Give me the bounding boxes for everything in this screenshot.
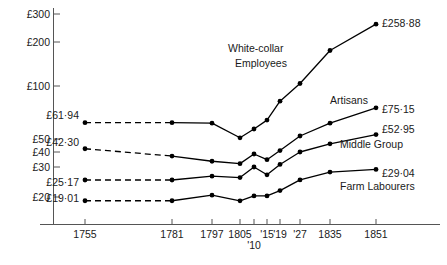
- data-point-marker: [374, 22, 379, 27]
- white-collar-start-value: £61·94: [46, 109, 79, 121]
- farm-labourers-label: Farm Labourers: [340, 180, 415, 192]
- data-point-marker: [238, 135, 243, 140]
- y-tick-label: £300: [27, 8, 51, 20]
- middle-group-label: Middle Group: [340, 138, 403, 150]
- data-point-marker: [265, 118, 270, 123]
- data-point-marker: [238, 161, 243, 166]
- middle-group-end-value: £52·95: [382, 123, 415, 135]
- data-point-marker: [83, 198, 88, 203]
- data-point-marker: [252, 127, 257, 132]
- data-point-marker: [328, 48, 333, 53]
- white-collar-label-line2: Employees: [235, 57, 287, 69]
- x-tick-label: 1755: [73, 228, 97, 240]
- data-point-marker: [328, 141, 333, 146]
- x-tick-label: '10: [247, 239, 261, 251]
- data-point-marker: [374, 132, 379, 137]
- data-point-marker: [210, 121, 215, 126]
- data-point-marker: [83, 178, 88, 183]
- data-point-marker: [278, 188, 283, 193]
- series-middle-group: [83, 132, 379, 182]
- artisans-label: Artisans: [330, 94, 368, 106]
- data-point-marker: [210, 174, 215, 179]
- y-axis-tick-labels: £300£200£100£50£40£30£20: [27, 8, 51, 203]
- data-point-marker: [83, 120, 88, 125]
- data-point-marker: [170, 120, 175, 125]
- x-tick-label: '27: [293, 228, 307, 240]
- y-tick-label: £200: [27, 36, 51, 48]
- farm-labourers-end-value: £29·04: [382, 167, 415, 179]
- data-point-marker: [170, 198, 175, 203]
- data-point-marker: [83, 146, 88, 151]
- white-collar-label-line1: White-collar: [228, 42, 284, 54]
- data-point-marker: [265, 157, 270, 162]
- y-tick-label: £30: [32, 161, 50, 173]
- data-point-marker: [265, 172, 270, 177]
- data-point-marker: [265, 193, 270, 198]
- data-point-marker: [238, 198, 243, 203]
- x-tick-label: '15: [260, 228, 274, 240]
- data-point-marker: [374, 167, 379, 172]
- data-point-marker: [238, 175, 243, 180]
- middle-group-start-value: £25·17: [46, 176, 79, 188]
- data-point-marker: [328, 170, 333, 175]
- x-tick-label: 1781: [160, 228, 184, 240]
- data-point-marker: [210, 193, 215, 198]
- data-point-marker: [278, 148, 283, 153]
- data-point-marker: [298, 134, 303, 139]
- farm-labourers-start-value: £19·01: [46, 192, 79, 204]
- data-point-marker: [252, 193, 257, 198]
- data-point-marker: [170, 178, 175, 183]
- x-tick-label: '19: [273, 228, 287, 240]
- wage-trends-chart: £300£200£100£50£40£30£20 175517811797180…: [0, 0, 447, 265]
- x-tick-label: 1835: [318, 228, 342, 240]
- white-collar-end-value: £258·88: [382, 17, 421, 29]
- data-point-marker: [298, 150, 303, 155]
- data-point-marker: [278, 99, 283, 104]
- data-point-marker: [252, 165, 257, 170]
- x-tick-label: 1851: [364, 228, 388, 240]
- data-point-marker: [374, 105, 379, 110]
- data-point-marker: [278, 162, 283, 167]
- series-path: [172, 108, 376, 164]
- series-dashed-segment: [85, 149, 172, 156]
- x-axis-tick-labels: 1755178117971805'10'15'19'2718351851: [73, 228, 388, 251]
- data-point-marker: [170, 154, 175, 159]
- data-point-marker: [252, 152, 257, 157]
- x-tick-label: 1797: [200, 228, 224, 240]
- artisans-start-value: £42·30: [46, 136, 79, 148]
- series-farm-labourers: [83, 167, 379, 203]
- y-axis-ticks: [54, 14, 60, 197]
- y-tick-label: £100: [27, 80, 51, 92]
- data-point-marker: [298, 81, 303, 86]
- x-axis-ticks: [85, 219, 376, 224]
- artisans-end-value: £75·15: [382, 103, 415, 115]
- series-artisans: [83, 105, 379, 166]
- data-point-marker: [328, 121, 333, 126]
- axes-group: [40, 8, 440, 225]
- data-point-marker: [298, 178, 303, 183]
- data-point-marker: [210, 159, 215, 164]
